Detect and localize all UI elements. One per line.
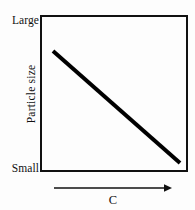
y-axis-tick-label-small: Small — [0, 162, 39, 174]
x-axis-title: C — [54, 193, 172, 207]
plot-frame — [40, 15, 188, 172]
particle-size-vs-c-figure: Large Small Particle size C — [0, 0, 195, 210]
y-axis-tick-label-large: Large — [0, 14, 39, 26]
y-axis-title: Particle size — [25, 65, 37, 123]
x-axis-arrow — [54, 180, 172, 192]
